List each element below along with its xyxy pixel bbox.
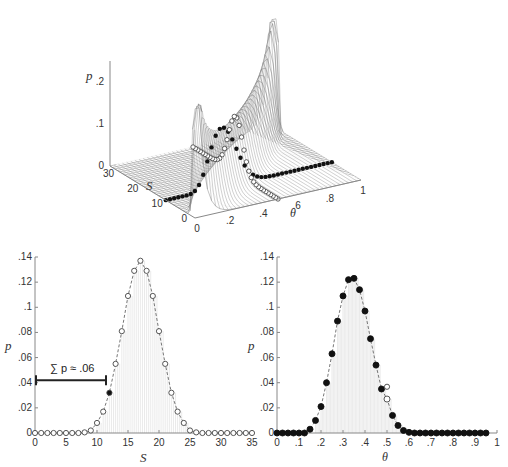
slice-point-open: [232, 114, 236, 118]
data-point: [125, 293, 130, 298]
data-point: [101, 409, 106, 414]
data-point: [384, 396, 390, 402]
slice-point-open: [242, 148, 246, 152]
slice-point-filled: [272, 173, 276, 177]
data-point: [373, 362, 379, 368]
svg-text:.04: .04: [18, 377, 32, 388]
data-point: [57, 430, 62, 435]
highlight-point: [384, 384, 389, 389]
svg-text:.02: .02: [260, 402, 274, 413]
slice-point-filled: [180, 194, 184, 198]
data-point: [88, 428, 93, 433]
svg-text:.02: .02: [18, 402, 32, 413]
right-x-label: θ: [382, 450, 388, 465]
slice-point-filled: [230, 137, 234, 141]
svg-text:30: 30: [103, 168, 115, 179]
data-point: [51, 430, 56, 435]
data-point: [138, 258, 143, 263]
slice-point-filled: [309, 165, 313, 169]
data-point: [94, 420, 99, 425]
svg-text:0: 0: [32, 437, 38, 448]
slice-point-open: [237, 123, 241, 127]
data-point: [346, 277, 352, 283]
data-point: [390, 412, 396, 418]
data-point: [351, 275, 357, 281]
data-point: [113, 361, 118, 366]
svg-text:.04: .04: [260, 377, 274, 388]
data-point: [144, 268, 149, 273]
slice-point-filled: [172, 196, 176, 200]
svg-text:.6: .6: [405, 437, 414, 448]
data-point: [395, 422, 401, 428]
slice-point-filled: [317, 163, 321, 167]
slice-point-filled: [296, 168, 300, 172]
slice-point-open: [222, 146, 226, 150]
surface-y-label: S: [146, 178, 153, 194]
slice-point-filled: [222, 126, 226, 130]
svg-text:20: 20: [153, 437, 165, 448]
data-point: [249, 430, 254, 435]
svg-text:15: 15: [122, 437, 134, 448]
svg-text:25: 25: [184, 437, 196, 448]
data-point: [231, 430, 236, 435]
right-y-label: p: [248, 338, 255, 354]
slice-point-filled: [176, 195, 180, 199]
slice-point-filled: [218, 127, 222, 131]
surface-plot: 0.1.201020300.2.4.6.81: [96, 19, 367, 234]
data-point: [194, 430, 199, 435]
slice-point-filled: [313, 164, 317, 168]
svg-text:.14: .14: [18, 251, 32, 262]
data-point: [324, 380, 330, 386]
data-point: [107, 390, 112, 395]
svg-text:.8: .8: [326, 193, 335, 204]
data-point: [175, 409, 180, 414]
svg-text:.7: .7: [427, 437, 436, 448]
slice-point-filled: [326, 161, 330, 165]
svg-text:0: 0: [181, 213, 187, 224]
data-point: [206, 430, 211, 435]
data-point: [357, 287, 363, 293]
svg-text:.1: .1: [266, 301, 275, 312]
svg-text:1: 1: [360, 185, 366, 196]
slice-point-filled: [189, 192, 193, 196]
svg-text:10: 10: [152, 198, 164, 209]
svg-text:.06: .06: [18, 352, 32, 363]
data-point: [340, 293, 346, 299]
slice-point-filled: [205, 159, 209, 163]
slice-point-filled: [280, 171, 284, 175]
slice-point-filled: [321, 162, 325, 166]
svg-text:5: 5: [63, 437, 69, 448]
data-point: [181, 420, 186, 425]
surface-z-label: p: [86, 68, 93, 84]
svg-text:.1: .1: [24, 301, 33, 312]
data-point: [335, 318, 341, 324]
data-point: [82, 430, 87, 435]
slice-point-filled: [184, 193, 188, 197]
slice-point-open: [239, 135, 243, 139]
svg-text:1: 1: [494, 437, 500, 448]
slice-point-open: [244, 160, 248, 164]
data-point: [76, 430, 81, 435]
slice-point-filled: [168, 197, 172, 201]
data-point: [243, 430, 248, 435]
slice-point-open: [227, 127, 231, 131]
data-point: [119, 329, 124, 334]
data-point: [132, 268, 137, 273]
slice-point-filled: [234, 146, 238, 150]
slice-point-open: [230, 119, 234, 123]
svg-text:.14: .14: [260, 251, 274, 262]
slice-point-filled: [238, 156, 242, 160]
slice-point-filled: [292, 169, 296, 173]
svg-text:.9: .9: [471, 437, 480, 448]
slice-point-open: [225, 137, 229, 141]
svg-text:.1: .1: [96, 118, 105, 129]
svg-text:0: 0: [274, 437, 280, 448]
svg-text:.12: .12: [260, 276, 274, 287]
data-point: [39, 430, 44, 435]
data-point: [362, 308, 368, 314]
left-x-label: S: [140, 450, 147, 466]
data-point: [45, 430, 50, 435]
data-point: [307, 426, 313, 432]
slice-point-filled: [197, 183, 201, 187]
surface-x-label: θ: [290, 206, 296, 221]
